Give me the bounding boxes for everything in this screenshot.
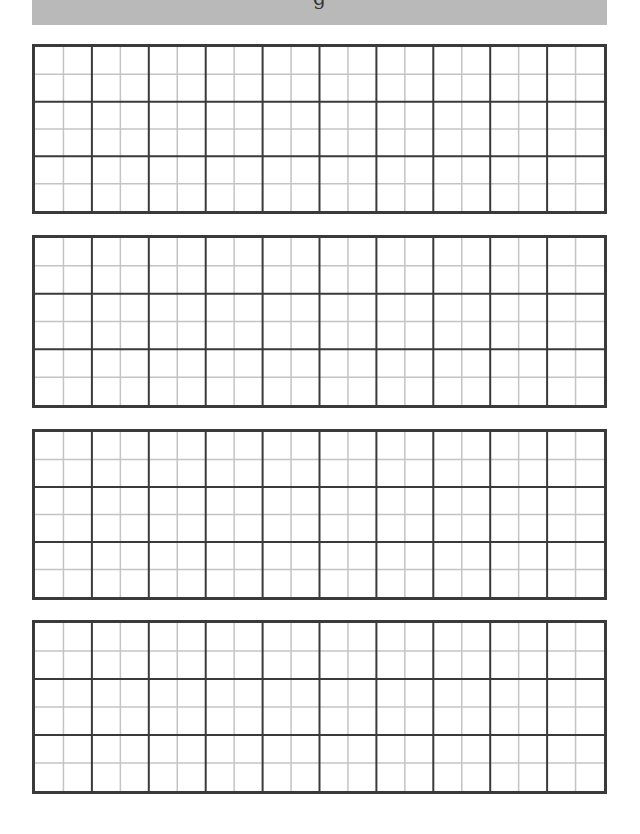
grid-block-1: [32, 44, 607, 214]
header-partial-title: g: [32, 0, 607, 10]
header-band: g: [32, 0, 607, 25]
grid-block-2: [32, 235, 607, 408]
grid-lines: [35, 47, 604, 211]
grid-block-4: [32, 620, 607, 794]
grid-block-3: [32, 429, 607, 600]
grid-lines: [35, 238, 604, 405]
grid-lines: [35, 432, 604, 597]
grid-lines: [35, 623, 604, 791]
